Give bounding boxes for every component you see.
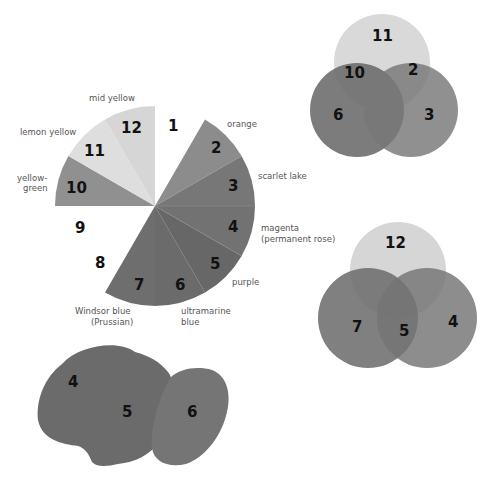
venn-top-number-3: 3 xyxy=(424,106,434,124)
wheel-number-2: 2 xyxy=(211,139,221,157)
wheel-number-11: 11 xyxy=(84,142,105,160)
venn-bottom-number-7: 7 xyxy=(352,318,362,336)
wheel-number-10: 10 xyxy=(66,179,87,197)
wheel-number-3: 3 xyxy=(228,177,238,195)
label-ultramarine-line2: blue xyxy=(181,317,199,327)
venn-bottom-circle-4 xyxy=(377,268,477,368)
wheel-number-7: 7 xyxy=(134,276,144,294)
wheel-number-9: 9 xyxy=(75,219,85,237)
wheel-number-6: 6 xyxy=(175,276,185,294)
label-mid-yellow: mid yellow xyxy=(89,93,135,103)
label-scarlet-lake: scarlet lake xyxy=(258,171,307,181)
venn-top-number-10: 10 xyxy=(344,64,365,82)
label-yellow-green-line2: green xyxy=(23,183,48,193)
blob-number-5: 5 xyxy=(122,403,132,421)
venn-bottom-number-5: 5 xyxy=(399,322,409,340)
wheel-number-5: 5 xyxy=(210,255,220,273)
blob-number-4: 4 xyxy=(68,373,78,391)
colour-wheel xyxy=(55,106,255,306)
venn-top: 11 10 2 6 3 xyxy=(310,14,458,157)
label-lemon-yellow: lemon yellow xyxy=(20,127,76,137)
wheel-number-12: 12 xyxy=(121,119,142,137)
label-purple: purple xyxy=(232,277,259,287)
label-magenta-line2: (permanent rose) xyxy=(261,234,335,244)
paint-blobs: 4 5 6 xyxy=(38,345,229,466)
wheel-number-1: 1 xyxy=(168,117,178,135)
venn-bottom-number-4: 4 xyxy=(448,313,458,331)
label-yellow-green-line1: yellow- xyxy=(17,173,47,183)
blob-number-6: 6 xyxy=(187,403,197,421)
venn-bottom-number-12: 12 xyxy=(385,234,406,252)
label-ultramarine-line1: ultramarine xyxy=(181,306,231,316)
label-windsor-blue-line1: Windsor blue xyxy=(75,306,131,316)
venn-top-number-11: 11 xyxy=(372,27,393,45)
venn-top-number-6: 6 xyxy=(333,106,343,124)
wheel-segment-7 xyxy=(105,206,155,306)
label-orange: orange xyxy=(227,119,257,129)
label-magenta-line1: magenta xyxy=(261,223,299,233)
venn-top-number-2: 2 xyxy=(408,61,418,79)
wheel-number-8: 8 xyxy=(95,254,105,272)
venn-bottom: 12 7 5 4 xyxy=(318,222,477,368)
label-windsor-blue-line2: (Prussian) xyxy=(91,317,133,327)
colour-mixing-diagram: 1 2 3 4 5 6 7 8 9 10 11 12 mid yellow le… xyxy=(0,0,491,482)
wheel-number-4: 4 xyxy=(228,218,238,236)
